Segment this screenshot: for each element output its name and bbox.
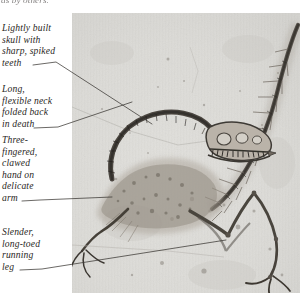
annotation-label-leg: Slender, long-toed running leg — [2, 226, 68, 272]
clipped-body-text: as by others. — [1, 0, 121, 6]
annotation-label-hand: Three- fingered, clawed hand on delicate… — [2, 134, 64, 204]
fossil-photograph — [72, 13, 300, 293]
figure-page: as by others. — [0, 0, 300, 303]
annotation-label-neck: Long, flexible neck folded back in death — [2, 83, 68, 129]
annotation-label-skull: Lightly built skull with sharp, spiked t… — [2, 22, 68, 68]
